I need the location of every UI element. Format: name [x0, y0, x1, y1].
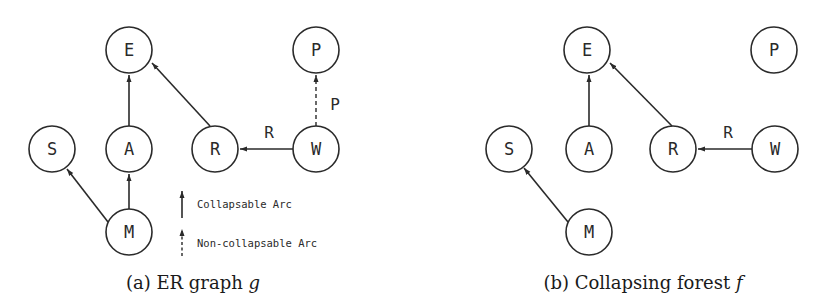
panel-a-er-graph: R P E P S A R W M — [29, 27, 340, 293]
node-w: W — [293, 126, 339, 172]
edge-label-r: R — [723, 123, 733, 142]
legend: Collapsable Arc Non-collapsable Arc — [182, 191, 317, 256]
svg-text:E: E — [124, 40, 134, 60]
svg-text:M: M — [124, 222, 134, 242]
svg-text:P: P — [311, 40, 321, 60]
edge-m-to-s — [524, 168, 568, 222]
legend-collapsable-label: Collapsable Arc — [197, 198, 292, 210]
figure-canvas: R P E P S A R W M — [0, 0, 832, 308]
node-m: M — [106, 209, 152, 255]
edge-r-to-e — [610, 63, 672, 126]
panel-b-collapsing-forest: R E P S A R W M — [486, 27, 798, 293]
node-m: M — [566, 209, 612, 255]
node-a: A — [106, 126, 152, 172]
edge-r-to-e — [152, 63, 210, 126]
node-w: W — [752, 126, 798, 172]
svg-text:W: W — [770, 139, 781, 159]
caption-a: (a) ER graph g — [126, 272, 260, 293]
svg-text:S: S — [47, 139, 57, 159]
node-s: S — [486, 126, 532, 172]
edge-label-p: P — [330, 95, 340, 114]
node-e: E — [106, 27, 152, 73]
edge-m-to-s — [67, 169, 108, 222]
caption-b: (b) Collapsing forest f — [543, 272, 745, 293]
svg-text:S: S — [504, 139, 514, 159]
node-a: A — [566, 126, 612, 172]
legend-non-collapsable-label: Non-collapsable Arc — [197, 237, 317, 249]
node-p: P — [751, 27, 797, 73]
svg-text:A: A — [584, 139, 594, 159]
svg-text:P: P — [769, 40, 779, 60]
node-p: P — [293, 27, 339, 73]
svg-text:R: R — [668, 139, 679, 159]
edge-label-r: R — [264, 123, 274, 142]
svg-text:M: M — [584, 222, 594, 242]
svg-text:W: W — [311, 139, 322, 159]
node-s: S — [29, 126, 75, 172]
node-r: R — [650, 126, 696, 172]
svg-text:A: A — [124, 139, 134, 159]
node-e: E — [564, 27, 610, 73]
svg-text:E: E — [582, 40, 592, 60]
svg-text:R: R — [210, 139, 221, 159]
node-r: R — [192, 126, 238, 172]
